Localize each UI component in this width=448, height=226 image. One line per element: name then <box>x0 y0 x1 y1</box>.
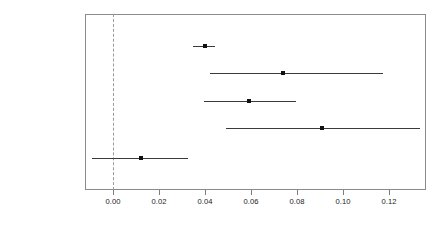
x-axis-tick <box>159 190 160 195</box>
x-axis-tick-label: 0.12 <box>381 197 396 206</box>
x-axis-tick <box>389 190 390 195</box>
x-axis-tick <box>205 190 206 195</box>
estimate-point <box>247 99 251 103</box>
x-axis-tick-label: 0.00 <box>105 197 120 206</box>
estimate-point <box>281 71 285 75</box>
estimate-point <box>203 44 207 48</box>
plot-panel <box>85 14 426 190</box>
estimate-point <box>139 156 143 160</box>
zero-reference-line <box>113 14 114 190</box>
x-axis-tick-label: 0.06 <box>243 197 258 206</box>
x-axis-tick-label: 0.04 <box>197 197 212 206</box>
confidence-interval-line <box>210 73 383 74</box>
x-axis-tick <box>113 190 114 195</box>
x-axis-tick <box>343 190 344 195</box>
coefficient-plot-figure: No obvious directivityEnterpriseIndividu… <box>0 0 448 226</box>
estimate-point <box>320 126 324 130</box>
x-axis-tick-label: 0.08 <box>289 197 304 206</box>
x-axis-tick-label: 0.02 <box>151 197 166 206</box>
x-axis-tick <box>297 190 298 195</box>
x-axis-tick <box>251 190 252 195</box>
x-axis-tick-label: 0.10 <box>335 197 350 206</box>
